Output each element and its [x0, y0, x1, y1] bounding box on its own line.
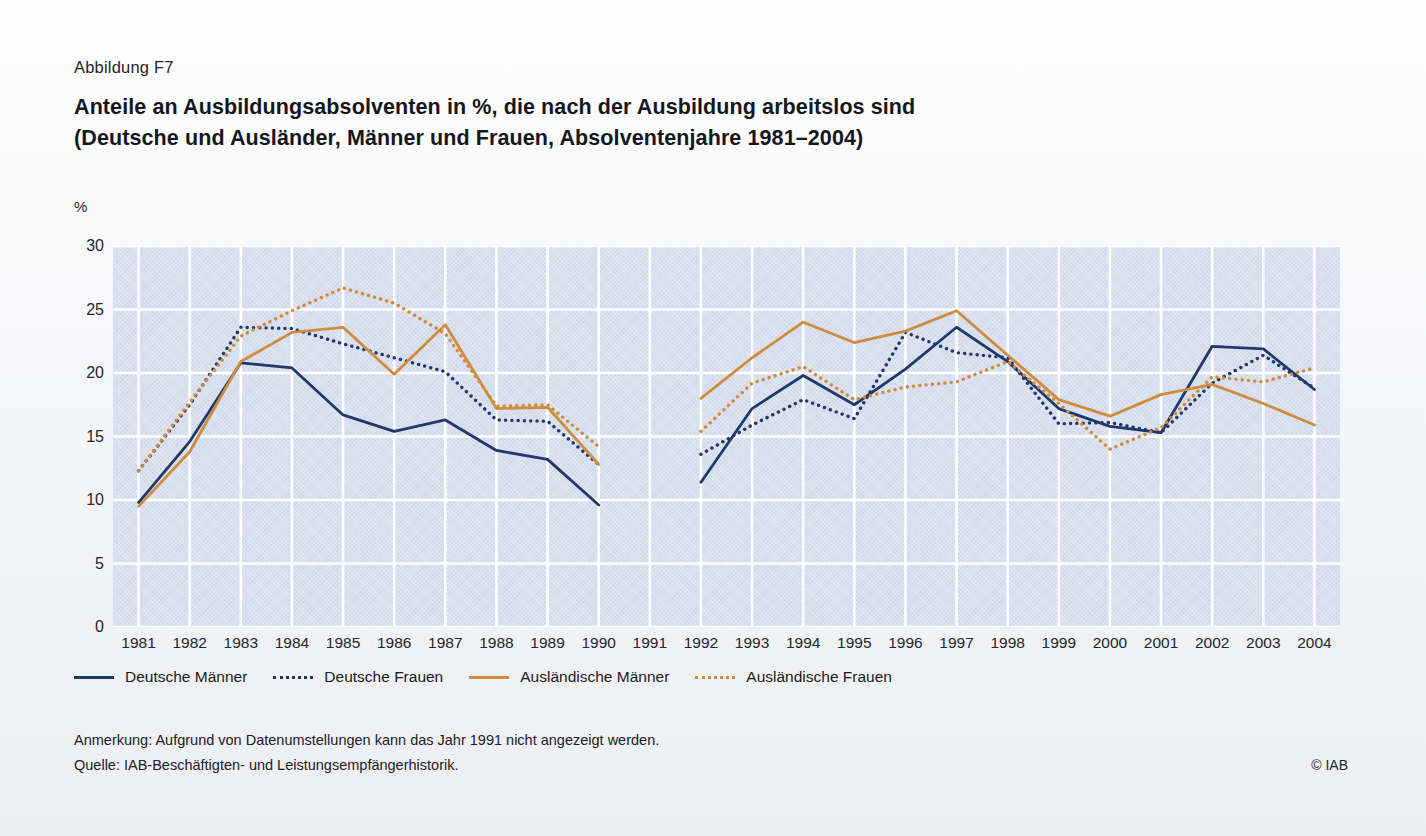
x-tick-1981: 1981 [121, 634, 155, 652]
legend-swatch-line [273, 676, 313, 679]
y-axis-unit-label: % [74, 198, 87, 215]
series-deutsche-m-nner [139, 327, 1315, 505]
footnote-note: Anmerkung: Aufgrund von Datenumstellunge… [74, 728, 659, 753]
legend-label: Deutsche Frauen [324, 668, 443, 686]
chart-legend: Deutsche MännerDeutsche FrauenAusländisc… [74, 668, 892, 686]
legend-swatch-line [74, 676, 114, 679]
x-tick-1995: 1995 [837, 634, 871, 652]
footer-divider [74, 716, 1350, 717]
y-axis-tick-labels: 051015202530 [60, 246, 104, 627]
x-tick-1982: 1982 [172, 634, 206, 652]
y-tick-5: 5 [64, 555, 104, 573]
x-tick-1997: 1997 [939, 634, 973, 652]
series-deutsche-frauen [139, 327, 1315, 471]
x-tick-2003: 2003 [1246, 634, 1280, 652]
x-tick-1991: 1991 [633, 634, 667, 652]
x-tick-1985: 1985 [326, 634, 360, 652]
x-tick-1992: 1992 [684, 634, 718, 652]
legend-item-deutsche-frauen[interactable]: Deutsche Frauen [273, 668, 443, 686]
legend-item-ausl-ndische-m-nner[interactable]: Ausländische Männer [469, 668, 669, 686]
series-ausl-ndische-m-nner [139, 311, 1315, 507]
footnote-source: Quelle: IAB-Beschäftigten- und Leistungs… [74, 753, 659, 778]
copyright-label: © IAB [1311, 757, 1348, 773]
series-line-1 [139, 327, 599, 471]
x-tick-2002: 2002 [1195, 634, 1229, 652]
x-tick-1999: 1999 [1042, 634, 1076, 652]
legend-label: Deutsche Männer [125, 668, 247, 686]
x-tick-1990: 1990 [581, 634, 615, 652]
y-tick-15: 15 [64, 428, 104, 446]
x-tick-1993: 1993 [735, 634, 769, 652]
legend-label: Ausländische Frauen [746, 668, 892, 686]
y-tick-0: 0 [64, 618, 104, 636]
x-tick-1994: 1994 [786, 634, 820, 652]
x-axis-tick-labels: 1981198219831984198519861987198819891990… [113, 634, 1340, 658]
x-tick-1988: 1988 [479, 634, 513, 652]
legend-label: Ausländische Männer [520, 668, 669, 686]
chart-plot-area [113, 246, 1340, 627]
figure-number: Abbildung F7 [74, 58, 174, 77]
legend-swatch-solid-icon [74, 671, 114, 683]
x-tick-1987: 1987 [428, 634, 462, 652]
x-tick-2000: 2000 [1093, 634, 1127, 652]
title-line-1: Anteile an Ausbildungsabsolventen in %, … [74, 95, 915, 119]
figure-page: Abbildung F7 Anteile an Ausbildungsabsol… [0, 0, 1426, 836]
y-tick-30: 30 [64, 237, 104, 255]
y-tick-20: 20 [64, 364, 104, 382]
series-line-0 [139, 363, 599, 505]
legend-item-ausl-ndische-frauen[interactable]: Ausländische Frauen [695, 668, 892, 686]
title-line-2: (Deutsche und Ausländer, Männer und Frau… [74, 123, 1254, 154]
x-tick-1998: 1998 [990, 634, 1024, 652]
legend-swatch-solid-icon [469, 671, 509, 683]
x-tick-2004: 2004 [1297, 634, 1331, 652]
x-tick-2001: 2001 [1144, 634, 1178, 652]
x-tick-1989: 1989 [530, 634, 564, 652]
x-tick-1984: 1984 [275, 634, 309, 652]
legend-item-deutsche-m-nner[interactable]: Deutsche Männer [74, 668, 247, 686]
legend-swatch-dotted-icon [695, 671, 735, 683]
legend-swatch-dotted-icon [273, 671, 313, 683]
x-tick-1983: 1983 [224, 634, 258, 652]
page-title: Anteile an Ausbildungsabsolventen in %, … [74, 92, 1254, 154]
chart-svg [113, 246, 1340, 627]
legend-swatch-line [695, 676, 735, 679]
figure-footnotes: Anmerkung: Aufgrund von Datenumstellunge… [74, 728, 659, 778]
series-line-3 [139, 288, 599, 471]
legend-swatch-line [469, 676, 509, 679]
y-tick-10: 10 [64, 491, 104, 509]
x-tick-1996: 1996 [888, 634, 922, 652]
y-tick-25: 25 [64, 301, 104, 319]
x-tick-1986: 1986 [377, 634, 411, 652]
